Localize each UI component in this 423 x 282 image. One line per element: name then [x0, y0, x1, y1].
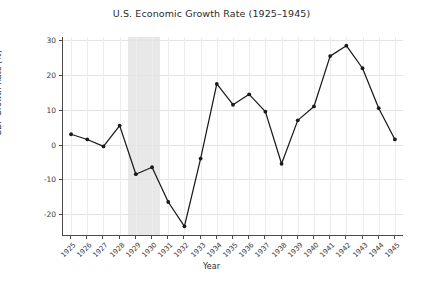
- y-tick-label: -20: [30, 210, 56, 219]
- data-point-marker: [118, 124, 122, 128]
- x-tick-mark: [248, 236, 249, 239]
- data-point-marker: [134, 172, 138, 176]
- data-point-marker: [231, 103, 235, 107]
- data-point-marker: [393, 138, 397, 142]
- y-axis-label: GDP Growth Rate (%): [0, 50, 3, 136]
- x-tick-mark: [378, 236, 379, 239]
- data-point-marker: [166, 200, 170, 204]
- x-tick-mark: [70, 236, 71, 239]
- x-tick-mark: [119, 236, 120, 239]
- x-tick-mark: [102, 236, 103, 239]
- x-tick-mark: [200, 236, 201, 239]
- data-point-marker: [85, 138, 89, 142]
- y-tick-mark: [59, 179, 62, 180]
- data-point-marker: [328, 54, 332, 58]
- data-point-marker: [280, 162, 284, 166]
- data-point-marker: [296, 118, 300, 122]
- x-tick-mark: [151, 236, 152, 239]
- data-point-marker: [344, 44, 348, 48]
- data-point-marker: [377, 106, 381, 110]
- x-tick-mark: [281, 236, 282, 239]
- y-tick-label: -10: [30, 175, 56, 184]
- line-series: [63, 37, 403, 235]
- x-tick-mark: [167, 236, 168, 239]
- data-point-marker: [69, 132, 73, 136]
- x-tick-mark: [329, 236, 330, 239]
- chart-title: U.S. Economic Growth Rate (1925–1945): [0, 8, 423, 19]
- x-tick-mark: [86, 236, 87, 239]
- data-point-marker: [183, 224, 187, 228]
- data-point-marker: [247, 92, 251, 96]
- data-point-marker: [199, 157, 203, 161]
- x-axis-label: Year: [0, 262, 423, 271]
- y-tick-label: 30: [30, 36, 56, 45]
- x-tick-mark: [313, 236, 314, 239]
- x-tick-mark: [394, 236, 395, 239]
- x-tick-mark: [183, 236, 184, 239]
- data-point-marker: [361, 66, 365, 70]
- x-tick-mark: [135, 236, 136, 239]
- series-line: [71, 46, 395, 227]
- data-point-marker: [215, 82, 219, 86]
- y-tick-mark: [59, 40, 62, 41]
- y-tick-label: 0: [30, 140, 56, 149]
- x-tick-mark: [362, 236, 363, 239]
- plot-area: [62, 37, 403, 236]
- data-point-marker: [150, 165, 154, 169]
- data-point-marker: [102, 145, 106, 149]
- y-tick-label: 10: [30, 105, 56, 114]
- chart-figure: U.S. Economic Growth Rate (1925–1945) GD…: [0, 0, 423, 282]
- data-point-marker: [263, 110, 267, 114]
- y-tick-mark: [59, 145, 62, 146]
- x-tick-mark: [297, 236, 298, 239]
- y-tick-mark: [59, 214, 62, 215]
- x-tick-mark: [345, 236, 346, 239]
- y-tick-label: 20: [30, 71, 56, 80]
- x-tick-mark: [216, 236, 217, 239]
- x-tick-mark: [264, 236, 265, 239]
- x-tick-mark: [232, 236, 233, 239]
- y-tick-mark: [59, 75, 62, 76]
- y-tick-mark: [59, 110, 62, 111]
- data-point-marker: [312, 105, 316, 109]
